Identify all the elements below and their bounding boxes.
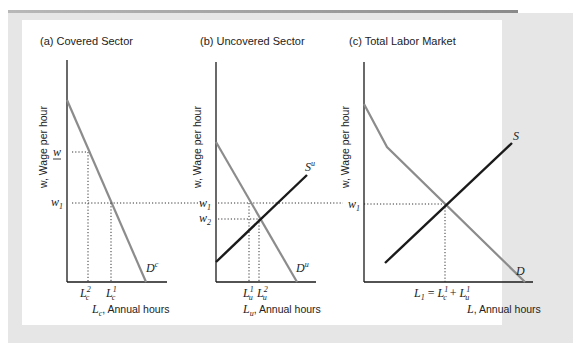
panel-b-y-axis-label: w, Wage per hour (191, 106, 203, 189)
panel-covered-sector: (a) Covered Sector w, Wage per hour Dc w… (37, 35, 169, 318)
panel-b-supply-label: Su (305, 159, 315, 174)
panel-c-w1-label: w1 (348, 197, 360, 213)
panel-a-title: (a) Covered Sector (40, 35, 133, 47)
panel-b-w1-label: w1 (199, 196, 211, 212)
panel-b-demand-curve (216, 142, 297, 282)
panel-c-x-axis-label: L, Annual hours (466, 302, 541, 316)
panel-b-demand-label: Du (295, 260, 309, 275)
diagram: (a) Covered Sector w, Wage per hour Dc w… (0, 0, 573, 343)
panel-a-w1-label: w1 (51, 195, 63, 211)
panel-a-y-axis-label: w, Wage per hour (37, 106, 49, 189)
panel-uncovered-sector: (b) Uncovered Sector w, Wage per hour Du… (191, 35, 321, 318)
panel-a-x-axis-label: Lc, Annual hours (91, 302, 169, 318)
panel-a-demand-curve (67, 100, 146, 282)
panel-c-equilibrium-label: L1 = L1c + L1u (413, 285, 470, 302)
panel-c-supply-curve (385, 143, 512, 263)
panel-a-lc1-label: L1c (105, 285, 117, 302)
panel-b-title: (b) Uncovered Sector (200, 35, 305, 47)
panel-c-title: (c) Total Labor Market (349, 35, 456, 47)
panel-a-min-wage-label: w (53, 145, 61, 159)
panel-b-x-axis-label: Lu, Annual hours (242, 302, 321, 318)
panel-b-supply-curve (216, 175, 307, 262)
panel-b-w2-label: w2 (199, 211, 211, 227)
panel-c-y-axis-label: w, Wage per hour (339, 106, 351, 189)
panel-a-demand-label: Dc (145, 260, 159, 275)
panel-a-lc2-label: L2c (79, 285, 91, 302)
panel-c-demand-label: D (515, 264, 525, 278)
panel-total-labor-market: (c) Total Labor Market w, Wage per hour … (339, 35, 541, 316)
panel-c-supply-label: S (513, 129, 519, 143)
panel-b-lu1-label: L1u (242, 285, 254, 302)
panel-b-lu2-label: L2u (256, 285, 268, 302)
